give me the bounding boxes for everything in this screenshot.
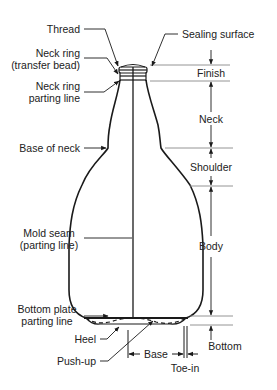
label-base: Base bbox=[140, 348, 172, 360]
label-base-of-neck: Base of neck bbox=[0, 142, 80, 154]
bottle-base bbox=[84, 318, 188, 324]
label-mold-seam: Mold seam (parting line) bbox=[14, 227, 84, 251]
leader-lines bbox=[84, 29, 178, 361]
label-body: Body bbox=[191, 240, 231, 252]
label-bottom-plate-line1: Bottom plate bbox=[10, 303, 84, 315]
bottle-outline bbox=[69, 80, 203, 318]
label-shoulder: Shoulder bbox=[186, 161, 236, 173]
label-bottom-plate-line2: parting line bbox=[10, 315, 84, 327]
label-heel: Heel bbox=[0, 333, 96, 345]
bottle-anatomy-diagram: Thread Neck ring (transfer bead) Neck ri… bbox=[0, 0, 277, 390]
label-sealing-surface: Sealing surface bbox=[182, 28, 254, 40]
label-finish: Finish bbox=[191, 67, 231, 79]
label-toe-in: Toe-in bbox=[165, 362, 205, 374]
label-neck-ring: Neck ring (transfer bead) bbox=[0, 47, 80, 71]
label-neck-ring-line1: Neck ring bbox=[0, 47, 80, 59]
label-push-up: Push-up bbox=[0, 355, 96, 367]
label-neck-ring-line2: (transfer bead) bbox=[0, 59, 80, 71]
dimension-guides bbox=[150, 65, 233, 325]
label-neck-ring-parting-line-line1: Neck ring bbox=[0, 80, 80, 92]
label-bottom: Bottom bbox=[200, 340, 250, 352]
label-bottom-plate-parting-line: Bottom plate parting line bbox=[10, 303, 84, 327]
label-thread: Thread bbox=[0, 23, 80, 35]
label-neck-ring-parting-line: Neck ring parting line bbox=[0, 80, 80, 104]
label-neck: Neck bbox=[191, 113, 231, 125]
label-neck-ring-parting-line-line2: parting line bbox=[0, 92, 80, 104]
label-mold-seam-line2: (parting line) bbox=[14, 239, 84, 251]
label-mold-seam-line1: Mold seam bbox=[14, 227, 84, 239]
